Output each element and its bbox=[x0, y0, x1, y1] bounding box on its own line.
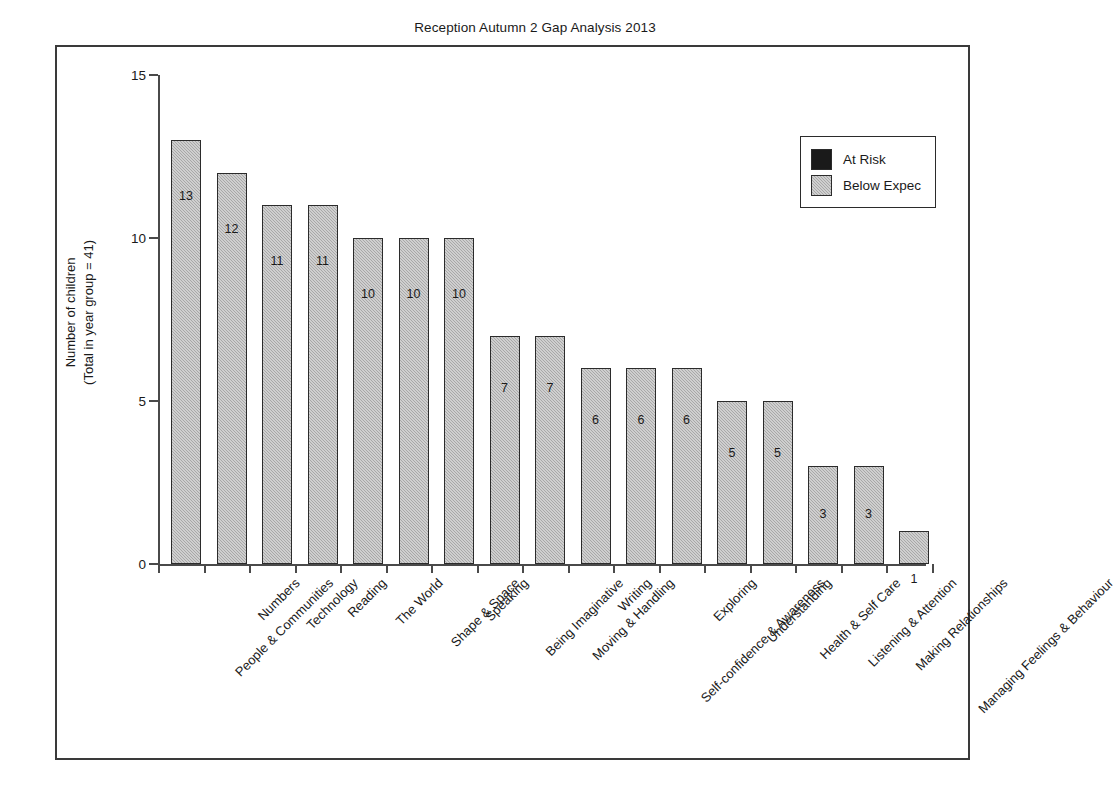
y-tick bbox=[149, 74, 158, 76]
bar-below-expec: 7 bbox=[490, 336, 520, 564]
x-tick bbox=[795, 564, 797, 573]
x-tick bbox=[477, 564, 479, 573]
chart-title: Reception Autumn 2 Gap Analysis 2013 bbox=[0, 20, 1020, 35]
x-tick bbox=[568, 564, 570, 573]
x-tick bbox=[340, 564, 342, 573]
bar-value-label: 1 bbox=[900, 572, 928, 586]
x-tick bbox=[841, 564, 843, 573]
x-tick bbox=[750, 564, 752, 573]
y-tick-label: 15 bbox=[131, 68, 146, 83]
y-tick-label: 5 bbox=[138, 394, 146, 409]
x-tick bbox=[249, 564, 251, 573]
bar-value-label: 12 bbox=[218, 222, 246, 236]
bar-below-expec: 13 bbox=[171, 140, 201, 564]
bar-value-label: 7 bbox=[536, 381, 564, 395]
y-tick-label: 0 bbox=[138, 557, 146, 572]
bar-value-label: 5 bbox=[764, 446, 792, 460]
chart-legend: At RiskBelow Expec bbox=[800, 136, 936, 208]
bar-value-label: 5 bbox=[718, 446, 746, 460]
bar-value-label: 11 bbox=[263, 254, 291, 268]
y-tick bbox=[149, 237, 158, 239]
y-axis-title-line-2: (Total in year group = 41) bbox=[80, 240, 98, 385]
bar-value-label: 7 bbox=[491, 381, 519, 395]
x-tick bbox=[613, 564, 615, 573]
x-axis-line bbox=[158, 564, 926, 566]
bar-below-expec: 1 bbox=[899, 531, 929, 564]
bar-value-label: 3 bbox=[809, 507, 837, 521]
bar-below-expec: 11 bbox=[308, 205, 338, 564]
bar-below-expec: 5 bbox=[717, 401, 747, 564]
bar-below-expec: 5 bbox=[763, 401, 793, 564]
bar-below-expec: 12 bbox=[217, 173, 247, 564]
bar-below-expec: 7 bbox=[535, 336, 565, 564]
x-tick bbox=[295, 564, 297, 573]
legend-swatch-at-risk-icon bbox=[811, 149, 832, 170]
y-axis-line bbox=[158, 75, 160, 564]
bar-below-expec: 10 bbox=[399, 238, 429, 564]
legend-item: Below Expec bbox=[811, 172, 921, 198]
bar-value-label: 10 bbox=[445, 287, 473, 301]
bar-below-expec: 11 bbox=[262, 205, 292, 564]
bar-value-label: 6 bbox=[627, 413, 655, 427]
x-tick bbox=[522, 564, 524, 573]
legend-label: Below Expec bbox=[843, 178, 921, 193]
bar-below-expec: 10 bbox=[353, 238, 383, 564]
bar-value-label: 13 bbox=[172, 189, 200, 203]
bar-below-expec: 6 bbox=[672, 368, 702, 564]
bar-below-expec: 3 bbox=[854, 466, 884, 564]
bar-value-label: 3 bbox=[855, 507, 883, 521]
y-tick-label: 10 bbox=[131, 231, 146, 246]
legend-item: At Risk bbox=[811, 146, 921, 172]
y-tick bbox=[149, 563, 158, 565]
legend-label: At Risk bbox=[843, 152, 886, 167]
x-tick bbox=[204, 564, 206, 573]
x-tick bbox=[158, 564, 160, 573]
bar-below-expec: 6 bbox=[626, 368, 656, 564]
y-axis-title-line-1: Number of children bbox=[62, 240, 80, 385]
x-tick bbox=[386, 564, 388, 573]
x-tick bbox=[431, 564, 433, 573]
bar-value-label: 11 bbox=[309, 254, 337, 268]
y-axis-title: Number of children (Total in year group … bbox=[62, 240, 97, 385]
bar-value-label: 6 bbox=[673, 413, 701, 427]
legend-swatch-below-expec-icon bbox=[811, 175, 832, 196]
bar-below-expec: 3 bbox=[808, 466, 838, 564]
bar-value-label: 10 bbox=[400, 287, 428, 301]
bar-below-expec: 6 bbox=[581, 368, 611, 564]
x-tick bbox=[704, 564, 706, 573]
bar-below-expec: 10 bbox=[444, 238, 474, 564]
x-tick bbox=[659, 564, 661, 573]
y-tick bbox=[149, 400, 158, 402]
bar-value-label: 10 bbox=[354, 287, 382, 301]
x-tick bbox=[932, 564, 934, 573]
x-tick bbox=[886, 564, 888, 573]
bar-value-label: 6 bbox=[582, 413, 610, 427]
